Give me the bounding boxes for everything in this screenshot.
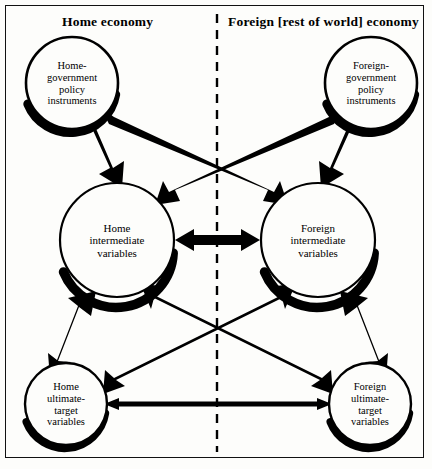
diagram-graphics (0, 0, 432, 469)
edge-foreign-intermediate-to-home-ultimate (103, 283, 296, 394)
panel-title-foreign: Foreign [rest of world] economy (228, 14, 419, 30)
diagram-canvas: Home economy Foreign [rest of world] eco… (0, 0, 432, 469)
node-foreign-policy[interactable] (325, 37, 417, 133)
edge-home-intermediate-to-foreign-ultimate (140, 283, 333, 394)
panel-title-home: Home economy (62, 14, 153, 30)
node-home-policy[interactable] (26, 37, 118, 133)
node-home-intermediate[interactable] (60, 183, 174, 307)
node-foreign-ultimate[interactable] (329, 363, 411, 448)
node-home-ultimate[interactable] (25, 363, 107, 448)
node-foreign-intermediate[interactable] (261, 183, 375, 307)
edge-home-intermediate-to-foreign-intermediate (175, 229, 260, 251)
